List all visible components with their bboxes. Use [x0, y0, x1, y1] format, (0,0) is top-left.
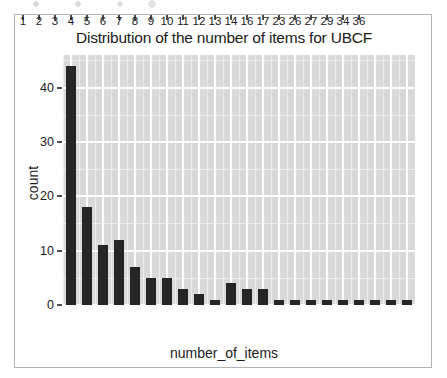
- y-axis-tick-mark: [57, 87, 62, 89]
- gridline-x-minor: [79, 55, 80, 305]
- gridline-x-major: [198, 55, 200, 305]
- gridline-x-major: [166, 55, 168, 305]
- x-axis-tick-label: 4: [68, 15, 74, 27]
- gridline-x-minor: [399, 55, 400, 305]
- y-axis-tick-label: 30: [40, 135, 54, 149]
- x-axis-tick-label: 9: [148, 15, 154, 27]
- bar: [162, 278, 172, 305]
- gridline-x-major: [214, 55, 216, 305]
- x-axis-tick-label: 12: [193, 15, 206, 27]
- gridline-x-major: [246, 55, 248, 305]
- bar: [226, 283, 236, 305]
- x-axis-tick-label: 36: [353, 15, 366, 27]
- gridline-x-major: [294, 55, 296, 305]
- y-axis-tick-mark: [57, 141, 62, 143]
- bar: [114, 240, 124, 305]
- x-axis-tick-label: 8: [132, 15, 138, 27]
- x-axis-tick-label: 6: [100, 15, 106, 27]
- gridline-x-major: [278, 55, 280, 305]
- chart-figure-frame: Distribution of the number of items for …: [14, 14, 432, 368]
- bar: [306, 300, 316, 305]
- gridline-x-minor: [111, 55, 112, 305]
- gridline-x-major: [326, 55, 328, 305]
- bar: [194, 294, 204, 305]
- x-axis-tick-label: 11: [177, 15, 189, 27]
- y-axis-tick-mark: [57, 304, 62, 306]
- bar: [338, 300, 348, 305]
- gridline-x-major: [374, 55, 376, 305]
- bar: [242, 289, 252, 305]
- bar: [82, 207, 92, 305]
- x-axis-tick-label: 7: [116, 15, 122, 27]
- x-axis-tick-label: 5: [84, 15, 90, 27]
- x-axis-tick-label: 2: [36, 15, 42, 27]
- gridline-x-minor: [287, 55, 288, 305]
- gridline-x-major: [230, 55, 232, 305]
- x-axis-tick-label: 14: [225, 15, 238, 27]
- gridline-x-minor: [207, 55, 208, 305]
- x-axis-title: number_of_items: [15, 345, 433, 361]
- scan-artifact: [0, 0, 447, 12]
- bar: [66, 66, 76, 305]
- bar: [402, 300, 412, 305]
- y-axis-tick-label: 10: [40, 244, 54, 258]
- gridline-x-minor: [335, 55, 336, 305]
- bar: [322, 300, 332, 305]
- gridline-x-major: [262, 55, 264, 305]
- gridline-x-major: [358, 55, 360, 305]
- bar: [386, 300, 396, 305]
- gridline-x-minor: [319, 55, 320, 305]
- plot-panel: [63, 55, 415, 305]
- y-axis-tick-mark: [57, 250, 62, 252]
- y-axis-tick-label: 20: [40, 189, 54, 203]
- x-axis-tick-label: 29: [321, 15, 334, 27]
- gridline-x-minor: [383, 55, 384, 305]
- gridline-x-minor: [127, 55, 128, 305]
- gridline-x-minor: [191, 55, 192, 305]
- bar: [274, 300, 284, 305]
- bar: [258, 289, 268, 305]
- gridline-x-minor: [351, 55, 352, 305]
- bar: [370, 300, 380, 305]
- gridline-x-major: [406, 55, 408, 305]
- gridline-x-minor: [143, 55, 144, 305]
- x-axis-tick-label: 3: [52, 15, 58, 27]
- x-axis-tick-label: 13: [209, 15, 222, 27]
- bar: [290, 300, 300, 305]
- x-axis-tick-label: 23: [273, 15, 286, 27]
- gridline-x-major: [310, 55, 312, 305]
- x-axis-tick-label: 26: [289, 15, 302, 27]
- chart-title: Distribution of the number of items for …: [15, 29, 433, 47]
- gridline-x-minor: [303, 55, 304, 305]
- gridline-x-major: [150, 55, 152, 305]
- bar: [210, 300, 220, 305]
- gridline-x-minor: [159, 55, 160, 305]
- gridline-x-minor: [95, 55, 96, 305]
- y-axis-tick-label-group: 010203040: [15, 55, 54, 305]
- gridline-x-minor: [175, 55, 176, 305]
- bar: [354, 300, 364, 305]
- x-axis-tick-label: 1: [20, 15, 26, 27]
- x-axis-tick-label: 17: [257, 15, 270, 27]
- y-axis-tick-mark: [57, 195, 62, 197]
- gridline-x-minor: [255, 55, 256, 305]
- gridline-x-major: [182, 55, 184, 305]
- x-axis-tick-label: 10: [161, 15, 174, 27]
- gridline-x-minor: [239, 55, 240, 305]
- y-axis-tick-label: 40: [40, 81, 54, 95]
- bar: [178, 289, 188, 305]
- gridline-x-minor: [367, 55, 368, 305]
- x-axis-tick-label: 16: [241, 15, 254, 27]
- gridline-x-minor: [223, 55, 224, 305]
- x-axis-tick-label: 27: [305, 15, 318, 27]
- gridline-x-major: [342, 55, 344, 305]
- x-axis-tick-label: 34: [337, 15, 350, 27]
- gridline-x-major: [390, 55, 392, 305]
- gridline-x-minor: [271, 55, 272, 305]
- bar: [130, 267, 140, 305]
- gridline-x-minor: [63, 55, 64, 305]
- bar: [146, 278, 156, 305]
- bar: [98, 245, 108, 305]
- y-axis-tick-label: 0: [47, 298, 54, 312]
